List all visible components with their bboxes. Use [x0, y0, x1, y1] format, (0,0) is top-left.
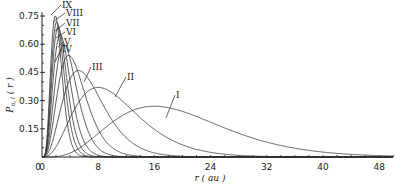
curve-VI	[42, 35, 393, 157]
x-tick-label: 24	[205, 162, 217, 172]
curve-label: VI	[65, 27, 76, 37]
origin-label: 0	[35, 162, 41, 172]
curve-IX	[42, 16, 393, 157]
x-tick-label: 8	[95, 162, 101, 172]
x-tick-label: 48	[373, 162, 385, 172]
curves	[42, 16, 393, 157]
y-tick-label: 0.75	[19, 11, 39, 21]
x-tick-label: 40	[317, 162, 329, 172]
x-tick-label: 16	[149, 162, 161, 172]
y-tick-label: 0.30	[19, 96, 39, 106]
y-axis-label: Pn, l ( r )	[5, 77, 16, 114]
x-axis-label: r ( au )	[194, 173, 226, 183]
curve-label: I	[176, 90, 180, 100]
y-tick-label: 0.60	[19, 39, 39, 49]
curve-label: IV	[62, 44, 73, 54]
curve-label: III	[92, 62, 103, 72]
y-tick-label: 0.15	[19, 124, 39, 134]
curve-label: II	[127, 72, 135, 82]
x-tick-label: 32	[261, 162, 272, 172]
radial-probability-chart: 0816243240480.150.300.450.600.750 IXVIII…	[0, 0, 395, 192]
curve-I	[42, 106, 393, 157]
curve-VII	[42, 27, 393, 157]
curve-label: VIII	[65, 8, 84, 18]
y-tick-label: 0.45	[19, 67, 39, 77]
svg-text:Pn, l ( r ): Pn, l ( r )	[5, 77, 16, 114]
